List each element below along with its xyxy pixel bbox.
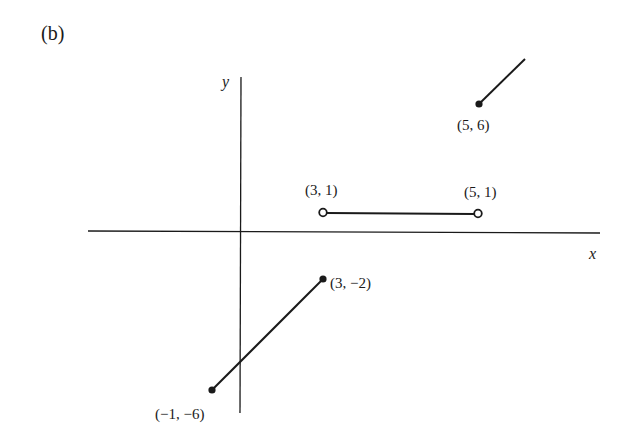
open-point-5-1	[474, 210, 482, 218]
open-point-3-1	[319, 209, 327, 217]
closed-point-neg1-neg6	[208, 386, 215, 393]
point-label-3-neg2: (3, −2)	[330, 276, 371, 291]
x-axis	[88, 231, 600, 233]
closed-point-5-6	[475, 100, 482, 107]
closed-point-3-neg2	[319, 275, 326, 282]
point-label-5-6: (5, 6)	[457, 118, 490, 133]
point-label-neg1-neg6: (−1, −6)	[155, 407, 204, 422]
point-label-3-1: (3, 1)	[305, 183, 338, 198]
y-axis-label: y	[222, 74, 229, 90]
piecewise-graph	[0, 0, 633, 440]
x-axis-label: x	[589, 246, 596, 262]
segment-lower	[212, 279, 323, 390]
segment-upper-ray	[479, 59, 525, 104]
segment-middle	[327, 213, 474, 214]
point-label-5-1: (5, 1)	[464, 185, 497, 200]
